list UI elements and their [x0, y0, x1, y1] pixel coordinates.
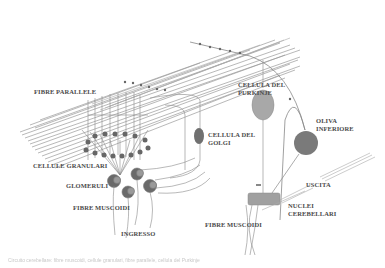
label-purkinje-cell-line1: CELLULA DEL	[238, 81, 285, 89]
label-cerebellar-nuclei-line2: CEREBELLARI	[288, 210, 336, 218]
figure-caption: Circuito cerebellare: fibre muscoidi, ce…	[8, 257, 308, 263]
label-output: USCITA	[306, 181, 331, 189]
label-inferior-olive-line1: OLIVA	[316, 117, 337, 125]
label-cerebellar-nuclei-line1: NUCLEI	[288, 202, 314, 210]
label-granule-cells: CELLULE GRANULARI	[33, 162, 107, 170]
right-mossy-fibers	[245, 205, 258, 255]
label-inferior-olive-line2: INFERIORE	[316, 125, 354, 133]
diagram-graphic	[0, 0, 385, 268]
label-mossy-fibers-right: FIBRE MUSCOIDI	[205, 221, 262, 229]
label-input: INGRESSO	[121, 230, 155, 238]
cerebellar-nuclei	[248, 193, 280, 205]
glomeruli	[108, 168, 157, 198]
label-mossy-fibers-left: FIBRE MUSCOIDI	[73, 204, 130, 212]
label-golgi-cell-line1: CELLULA DEL	[208, 131, 255, 139]
label-purkinje-cell-line2: PURKINJE	[238, 89, 272, 97]
golgi-cell	[194, 128, 204, 144]
label-parallel-fibers: FIBRE PARALLELE	[34, 88, 96, 96]
label-glomeruli: GLOMERULI	[66, 182, 108, 190]
inferior-olive	[294, 131, 318, 155]
label-golgi-cell-line2: GOLGI	[208, 139, 231, 147]
cerebellar-circuit-diagram: FIBRE PARALLELE CELLULA DEL PURKINJE OLI…	[0, 0, 385, 268]
